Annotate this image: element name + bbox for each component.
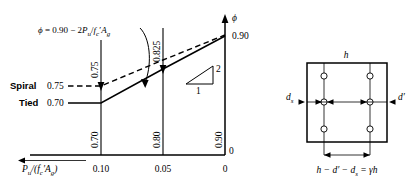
gamma-h-arrow-right <box>364 152 371 157</box>
series-tied-value: 0.70 <box>47 98 64 108</box>
figure-root: ϕ Pu/(fc′Ag) 0.10 0.05 0 0.75 0.70 <box>0 0 414 184</box>
x-tick-1: 0.05 <box>155 164 172 174</box>
section-bottom-equation: h − d′ − ds = γh <box>316 165 377 178</box>
rebar <box>321 126 327 132</box>
equation-leader-arrowhead <box>141 79 149 88</box>
gridline-005-bottom-label: 0.80 <box>152 131 162 148</box>
phi-chart-panel: ϕ Pu/(fc′Ag) 0.10 0.05 0 0.75 0.70 <box>0 0 286 184</box>
phi-axis-symbol: ϕ <box>232 13 237 23</box>
section-h-label: h <box>344 50 349 60</box>
rebar <box>321 73 327 79</box>
phi-equation: ϕ = 0.90 − 2Pu/fc′Ag <box>38 25 111 38</box>
phi-axis-arrowhead <box>222 14 229 23</box>
section-ds-label: ds <box>286 92 294 105</box>
be-h2: h <box>373 165 378 175</box>
cross-section-panel: h <box>286 0 414 184</box>
slope-rise-label: 2 <box>216 64 221 74</box>
origin-zero-label: 0 <box>229 146 234 156</box>
cross-section-svg: h <box>286 0 414 184</box>
eq-A-sub: g <box>107 30 111 38</box>
right-top-value: 0.90 <box>232 31 249 41</box>
series-tied-name: Tied <box>19 97 39 108</box>
gamma-h-dimension <box>324 152 370 157</box>
dprime-arrow-inner <box>361 99 368 104</box>
gridline-010-bottom-label: 0.70 <box>90 131 100 148</box>
x-axis-label: Pu/(fc′Ag) <box>18 158 86 177</box>
slope-run-label: 1 <box>196 86 201 96</box>
gamma-h-arrow-left <box>324 152 331 157</box>
x-tick-0: 0.10 <box>93 164 110 174</box>
section-dprime-label: d′ <box>398 92 406 102</box>
ds-arrow-return <box>327 99 334 104</box>
dprime-arrow-outer <box>389 99 396 104</box>
rebar <box>367 73 373 79</box>
gridline-005-top-label: 0.825 <box>152 40 162 62</box>
gridline-0-bottom-label: 0.90 <box>214 131 224 148</box>
xlabel-close: ) <box>53 164 57 175</box>
x-axis-label-arrowhead <box>18 158 25 164</box>
ds-dimension <box>299 99 334 104</box>
series-spiral-name: Spiral <box>10 80 36 91</box>
slope-triangle: 2 1 <box>186 64 221 96</box>
ds-arrow-outer <box>299 99 306 104</box>
rebar <box>367 126 373 132</box>
gridline-010-top-label: 0.75 <box>90 61 100 78</box>
x-tick-2: 0 <box>223 164 228 174</box>
phi-chart-svg: ϕ Pu/(fc′Ag) 0.10 0.05 0 0.75 0.70 <box>0 0 286 184</box>
svg-text:Pu/(fc′Ag): Pu/(fc′Ag) <box>21 164 57 177</box>
series-spiral-value: 0.75 <box>47 81 64 91</box>
eq-const: 0.90 <box>52 25 68 35</box>
dprime-prime: ′ <box>403 92 406 102</box>
ds-sub: s <box>291 97 294 105</box>
